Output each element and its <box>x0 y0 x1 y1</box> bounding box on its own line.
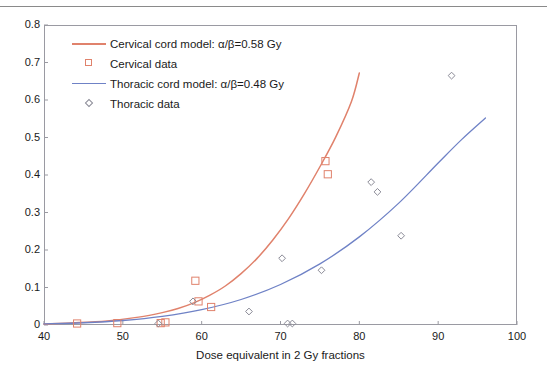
legend-line-key-icon <box>72 74 112 94</box>
legend-line-key-icon <box>72 34 112 54</box>
legend-label-thoracic-data: Thoracic data <box>110 96 180 112</box>
legend-row-thoracic-data: Thoracic data <box>72 94 332 114</box>
chart-legend: Cervical cord model: α/β=0.58 Gy Cervica… <box>72 34 332 114</box>
x-tick-label: 100 <box>497 330 537 342</box>
x-axis-title: Dose equivalent in 2 Gy fractions <box>44 349 517 361</box>
x-tick-label: 40 <box>24 330 64 342</box>
x-tick-label: 90 <box>418 330 458 342</box>
legend-square-key-icon <box>72 54 112 74</box>
chart-figure: 00.10.20.30.40.50.60.70.8 40506070809010… <box>0 0 547 375</box>
legend-row-thoracic-model: Thoracic cord model: α/β=0.48 Gy <box>72 74 332 94</box>
legend-diamond-key-icon <box>72 94 112 114</box>
x-tick-label: 80 <box>339 330 379 342</box>
legend-label-cervical-model: Cervical cord model: α/β=0.58 Gy <box>110 36 281 52</box>
x-tick-label: 50 <box>103 330 143 342</box>
x-tick-label: 60 <box>182 330 222 342</box>
legend-label-cervical-data: Cervical data <box>110 56 177 72</box>
legend-label-thoracic-model: Thoracic cord model: α/β=0.48 Gy <box>110 76 284 92</box>
legend-row-cervical-data: Cervical data <box>72 54 332 74</box>
legend-row-cervical-model: Cervical cord model: α/β=0.58 Gy <box>72 34 332 54</box>
x-tick-label: 70 <box>261 330 301 342</box>
